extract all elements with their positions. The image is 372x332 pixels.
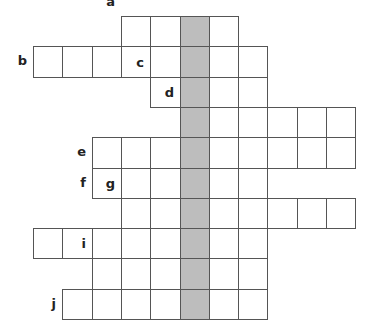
crossword-cell[interactable] [267, 137, 298, 169]
crossword-cell[interactable] [150, 46, 181, 78]
crossword-cell[interactable] [150, 168, 181, 199]
crossword-cell[interactable] [121, 228, 151, 259]
crossword-cell[interactable] [238, 107, 268, 138]
shaded-cell[interactable] [180, 168, 210, 199]
row-label: a [95, 0, 115, 10]
row-label: f [66, 175, 86, 191]
crossword-cell[interactable] [209, 289, 239, 320]
crossword-cell[interactable] [92, 228, 122, 259]
crossword-cell[interactable] [297, 137, 327, 169]
crossword-cell[interactable] [62, 289, 93, 320]
crossword-cell[interactable] [92, 289, 122, 320]
crossword-cell[interactable] [209, 16, 239, 47]
crossword-cell[interactable] [121, 198, 151, 229]
crossword-cell[interactable] [209, 77, 239, 108]
shaded-cell[interactable] [180, 107, 210, 138]
crossword-cell[interactable] [238, 77, 268, 108]
crossword-cell[interactable] [150, 16, 181, 47]
crossword-cell[interactable] [121, 258, 151, 290]
crossword-cell[interactable] [297, 107, 327, 138]
row-label: i [66, 236, 86, 252]
crossword-cell[interactable] [209, 46, 239, 78]
row-label: b [7, 53, 27, 69]
crossword-cell[interactable] [326, 137, 356, 169]
crossword-cell[interactable] [209, 137, 239, 169]
crossword-cell[interactable] [121, 289, 151, 320]
shaded-cell[interactable] [180, 137, 210, 169]
crossword-cell[interactable] [209, 198, 239, 229]
crossword-cell[interactable] [238, 137, 268, 169]
crossword-cell[interactable] [62, 46, 93, 78]
crossword-cell[interactable] [121, 137, 151, 169]
shaded-cell[interactable] [180, 16, 210, 47]
crossword-cell[interactable] [92, 258, 122, 290]
row-label: d [154, 85, 174, 101]
row-label: j [36, 296, 56, 312]
crossword-cell[interactable] [209, 258, 239, 290]
crossword-cell[interactable] [326, 198, 356, 229]
crossword-cell[interactable] [209, 168, 239, 199]
crossword-cell[interactable] [238, 46, 268, 78]
crossword-cell[interactable] [150, 137, 181, 169]
crossword-cell[interactable] [150, 258, 181, 290]
crossword-cell[interactable] [33, 46, 63, 78]
row-label: c [124, 55, 144, 71]
crossword-cell[interactable] [121, 16, 151, 47]
crossword-grid: abcdefgij [0, 0, 372, 332]
crossword-cell[interactable] [209, 107, 239, 138]
crossword-cell[interactable] [150, 289, 181, 320]
crossword-cell[interactable] [297, 198, 327, 229]
crossword-cell[interactable] [238, 258, 268, 290]
crossword-cell[interactable] [92, 137, 122, 169]
crossword-cell[interactable] [267, 107, 298, 138]
shaded-cell[interactable] [180, 46, 210, 78]
crossword-cell[interactable] [238, 228, 268, 259]
crossword-cell[interactable] [150, 198, 181, 229]
shaded-cell[interactable] [180, 77, 210, 108]
crossword-cell[interactable] [267, 198, 298, 229]
shaded-cell[interactable] [180, 258, 210, 290]
crossword-cell[interactable] [33, 228, 63, 259]
crossword-cell[interactable] [150, 228, 181, 259]
crossword-cell[interactable] [238, 289, 268, 320]
crossword-cell[interactable] [209, 228, 239, 259]
shaded-cell[interactable] [180, 228, 210, 259]
shaded-cell[interactable] [180, 198, 210, 229]
row-label: g [95, 176, 115, 192]
crossword-cell[interactable] [326, 107, 356, 138]
row-label: e [66, 144, 86, 160]
crossword-cell[interactable] [121, 168, 151, 199]
crossword-cell[interactable] [238, 168, 268, 199]
crossword-cell[interactable] [92, 46, 122, 78]
crossword-cell[interactable] [238, 198, 268, 229]
shaded-cell[interactable] [180, 289, 210, 320]
